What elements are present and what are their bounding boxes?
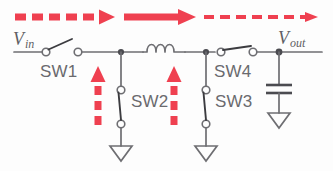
- label-vout: V out: [278, 28, 306, 50]
- schematic-canvas: V in V out SW1 SW2 SW3 SW4: [0, 0, 333, 171]
- sw1-label: SW1: [40, 62, 77, 81]
- arrow-input-dashed: [15, 10, 115, 25]
- switch-sw2[interactable]: [117, 86, 125, 128]
- sw2-label: SW2: [131, 92, 168, 111]
- sw2-blade: [119, 93, 122, 121]
- sw1-blade-open: [49, 39, 73, 50]
- arrow-sw3-up: [167, 66, 182, 125]
- inductor: [143, 45, 185, 53]
- arrow-output-dashed: [204, 12, 318, 22]
- sw4-label: SW4: [214, 62, 251, 81]
- capacitor: [266, 85, 292, 93]
- sw3-terminal-bottom: [202, 120, 210, 128]
- sw3-label: SW3: [215, 92, 252, 111]
- sw3-blade: [204, 93, 207, 121]
- label-vin: V in: [13, 29, 34, 51]
- circuit-diagram: V in V out SW1 SW2 SW3 SW4: [0, 0, 333, 171]
- vout-subscript: out: [290, 36, 306, 50]
- ground-capacitor: [268, 113, 290, 128]
- vin-subscript: in: [25, 37, 34, 51]
- arrow-sw2-up: [91, 66, 106, 125]
- ground-sw3: [195, 146, 217, 161]
- sw4-blade-closed: [223, 46, 251, 50]
- switch-sw4[interactable]: [217, 46, 257, 56]
- arrow-middle-solid: [124, 9, 196, 25]
- sw2-terminal-bottom: [117, 120, 125, 128]
- switch-sw3[interactable]: [202, 86, 210, 128]
- sw4-terminal-right: [249, 48, 257, 56]
- sw1-terminal-right: [74, 48, 82, 56]
- switch-sw1[interactable]: [42, 39, 82, 56]
- ground-sw2: [110, 146, 132, 161]
